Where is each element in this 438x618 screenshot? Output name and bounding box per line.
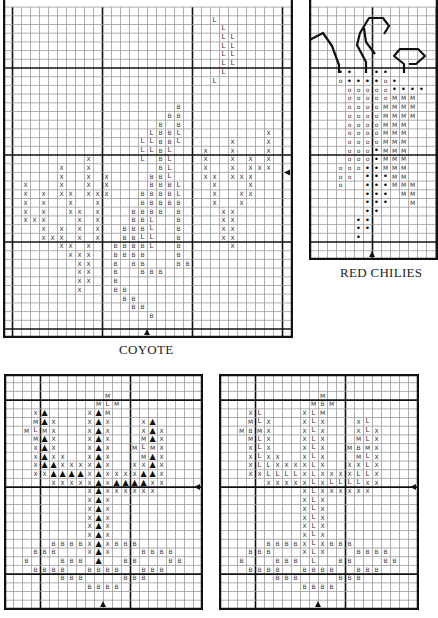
stitch-symbol: L	[147, 225, 156, 234]
stitch-symbol: X	[103, 444, 112, 453]
stitch-symbol: •	[363, 77, 372, 86]
stitch-symbol: X	[228, 138, 237, 147]
stitch-symbol: X	[372, 452, 381, 461]
stitch-symbol: B	[309, 565, 318, 574]
stitch-symbol: ▲	[94, 531, 103, 540]
stitch-symbol: B	[318, 400, 327, 409]
stitch-symbol: X	[75, 277, 84, 286]
stitch-symbol: B	[372, 565, 381, 574]
stitch-symbol: X	[21, 199, 30, 208]
stitch-symbol: X	[66, 251, 75, 260]
stitch-symbol: ▲	[148, 470, 157, 479]
stitch-symbol: X	[300, 409, 309, 418]
stitch-symbol: B	[336, 539, 345, 548]
stitch-symbol: B	[120, 225, 129, 234]
stitch-symbol: X	[246, 452, 255, 461]
stitch-symbol: L	[309, 513, 318, 522]
stitch-symbol: M	[399, 190, 408, 199]
stitch-symbol: B	[138, 303, 147, 312]
stitch-symbol: o	[354, 112, 363, 121]
stitch-symbol: L	[309, 478, 318, 487]
stitch-symbol: X	[85, 435, 94, 444]
stitch-symbol: X	[57, 172, 66, 181]
stitch-symbol: X	[201, 172, 210, 181]
stitch-symbol: X	[103, 505, 112, 514]
stitch-symbol: X	[66, 199, 75, 208]
stitch-symbol: L	[255, 461, 264, 470]
stitch-symbol: X	[31, 470, 40, 479]
stitch-symbol: X	[264, 164, 273, 173]
stitch-symbol: •	[336, 68, 345, 77]
stitch-symbol: o	[345, 138, 354, 147]
stitch-symbol: B	[291, 574, 300, 583]
stitch-symbol: M	[390, 103, 399, 112]
stitch-symbol: X	[102, 181, 111, 190]
coyote-title: COYOTE	[119, 342, 174, 358]
stitch-symbol: B	[49, 565, 58, 574]
stitch-symbol: X	[318, 548, 327, 557]
stitch-symbol: M	[345, 444, 354, 453]
stitch-symbol: X	[93, 216, 102, 225]
stitch-symbol: B	[49, 539, 58, 548]
stitch-symbol: o	[354, 85, 363, 94]
stitch-symbol: L	[219, 42, 228, 51]
stitch-symbol: o	[354, 155, 363, 164]
bottom-left-chart: MMLMX▲X▲MM▲XX▲XX▲MLMXX▲XX▲XM▲XX▲XM▲XX▲XX…	[4, 374, 203, 610]
stitch-symbol: B	[138, 242, 147, 251]
stitch-symbol: L	[309, 539, 318, 548]
stitch-symbol: X	[21, 207, 30, 216]
stitch-symbol: B	[156, 181, 165, 190]
stitch-symbol: ▲	[40, 418, 49, 427]
stitch-symbol: B	[130, 574, 139, 583]
stitch-symbol: X	[157, 461, 166, 470]
stitch-symbol: X	[39, 190, 48, 199]
stitch-symbol: M	[148, 444, 157, 453]
stitch-symbol: o	[354, 164, 363, 173]
bottom-right-chart: MMBMXLXLMMLXXLXXLMBMXXLXXLXMLXXLXMLXXLXX…	[219, 374, 419, 610]
stitch-symbol: X	[84, 251, 93, 260]
stitch-symbol: X	[85, 548, 94, 557]
stitch-symbol: ▲	[49, 470, 58, 479]
stitch-symbol: X	[31, 452, 40, 461]
stitch-symbol: X	[228, 172, 237, 181]
stitch-symbol: B	[246, 565, 255, 574]
stitch-symbol: X	[75, 216, 84, 225]
stitch-symbol: o	[336, 164, 345, 173]
stitch-symbol: B	[327, 565, 336, 574]
stitch-symbol: L	[309, 461, 318, 470]
stitch-symbol: B	[111, 259, 120, 268]
stitch-symbol: X	[57, 190, 66, 199]
stitch-symbol: X	[201, 146, 210, 155]
stitch-symbol: X	[39, 225, 48, 234]
stitch-symbol: M	[381, 138, 390, 147]
chili-stem-line	[309, 33, 339, 73]
stitch-symbol: L	[147, 242, 156, 251]
stitch-symbol: M	[390, 164, 399, 173]
stitch-symbol: X	[157, 452, 166, 461]
stitch-symbol: X	[84, 181, 93, 190]
stitch-symbol: X	[157, 444, 166, 453]
stitch-symbol: B	[129, 303, 138, 312]
stitch-symbol: L	[327, 478, 336, 487]
stitch-symbol: X	[210, 172, 219, 181]
stitch-symbol: L	[255, 418, 264, 427]
stitch-symbol: X	[30, 216, 39, 225]
stitch-symbol: L	[219, 51, 228, 60]
stitch-symbol: X	[228, 164, 237, 173]
stitch-symbol: B	[147, 181, 156, 190]
stitch-symbol: X	[336, 487, 345, 496]
stitch-symbol: B	[129, 251, 138, 260]
stitch-symbol: B	[130, 539, 139, 548]
stitch-symbol: B	[354, 565, 363, 574]
stitch-symbol: B	[381, 557, 390, 566]
stitch-symbol: B	[129, 233, 138, 242]
stitch-symbol: B	[58, 539, 67, 548]
stitch-symbol: X	[354, 461, 363, 470]
stitch-symbol: o	[354, 94, 363, 103]
stitch-symbol: L	[147, 216, 156, 225]
stitch-symbol: B	[165, 199, 174, 208]
stitch-symbol: X	[93, 233, 102, 242]
stitch-symbol: M	[246, 418, 255, 427]
stitch-symbol: B	[147, 312, 156, 321]
stitch-symbol: X	[31, 461, 40, 470]
